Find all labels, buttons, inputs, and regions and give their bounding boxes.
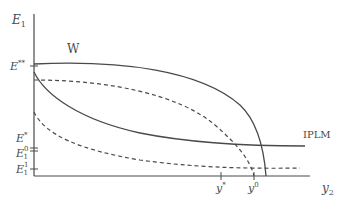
y-tick-label-e1-0: E01 (15, 145, 29, 161)
y-tick-label-e1-1: E11 (15, 161, 29, 177)
curve-iplm-solid (34, 72, 305, 146)
x-tick-label-y-star: y* (215, 181, 226, 195)
y-axis-label: E1 (11, 13, 26, 29)
x-tick-label-y-0: y0 (247, 181, 259, 195)
diagram-canvas: E1 W IPLM E** E* E01 E11 y* y0 y2 (0, 0, 348, 206)
x-axis-label: y2 (321, 181, 334, 197)
y-tick-label-e-star: E* (15, 131, 28, 145)
curve-label-w: W (67, 42, 80, 56)
curve-w-solid (34, 63, 266, 176)
curve-label-iplm: IPLM (303, 129, 331, 140)
y-tick-label-e-double-star: E** (9, 59, 26, 73)
curve-w-dashed (34, 80, 254, 176)
